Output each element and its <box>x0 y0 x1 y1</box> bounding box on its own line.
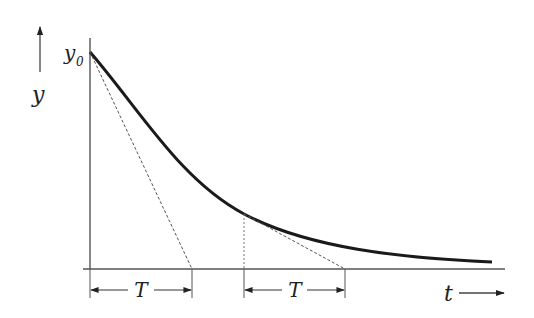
y0-subscript: 0 <box>76 55 84 69</box>
T-label-2: T <box>288 278 303 302</box>
decay-diagram: y y 0 T T t <box>0 0 534 318</box>
y-axis-label: y <box>31 82 45 107</box>
decay-curve <box>90 52 492 262</box>
t-axis-label: t <box>444 281 453 306</box>
y0-label: y <box>63 41 76 65</box>
time-constant-dimension-1: T <box>91 278 191 302</box>
time-constant-dimension-2: T <box>245 278 344 302</box>
T-label-1: T <box>134 278 149 302</box>
tangent-line-2 <box>244 214 345 269</box>
